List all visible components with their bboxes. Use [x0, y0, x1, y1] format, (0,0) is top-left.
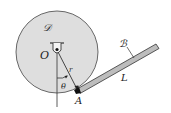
pivot-pin-icon: [55, 48, 58, 51]
bar-label: ℬ: [119, 38, 128, 49]
pivot-label: O: [40, 49, 49, 62]
angle-label: θ: [61, 82, 66, 91]
length-label: L: [120, 72, 128, 83]
diagram-canvas: 𝒟 O r θ A ℬ L: [0, 0, 171, 113]
bar-B-leader-line: [127, 47, 134, 58]
point-A-label: A: [74, 95, 82, 106]
